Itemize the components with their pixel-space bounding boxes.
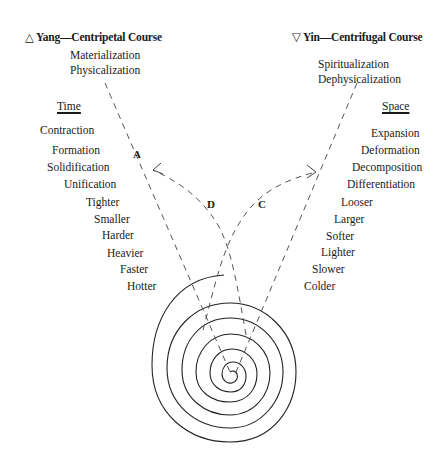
triangle-down-icon: ▽ — [292, 31, 301, 43]
yin-title: ▽ Yin—Centrifugal Course — [292, 30, 422, 44]
yang-word: Unification — [64, 178, 116, 190]
yin-word: Differentiation — [347, 178, 415, 190]
arrow-right-icon — [307, 165, 316, 178]
path-c-line — [203, 172, 316, 330]
yang-word: Solidification — [47, 161, 110, 173]
yin-subtitles: Spiritualization Dephysicalization — [318, 57, 401, 87]
yang-word: Hotter — [127, 280, 156, 292]
yin-word: Expansion — [371, 127, 420, 139]
yang-subtitle: Materialization — [70, 48, 140, 63]
yang-title-text: Yang—Centripetal Course — [36, 31, 162, 43]
arrow-left-icon — [153, 163, 163, 174]
label-c: C — [258, 198, 266, 210]
yin-subtitle: Dephysicalization — [318, 72, 401, 87]
label-a: A — [133, 148, 141, 160]
yang-word: Smaller — [94, 213, 130, 225]
yin-word: Colder — [304, 280, 335, 292]
yin-word: Looser — [341, 196, 373, 208]
yin-course-line — [236, 83, 357, 372]
yin-word: Larger — [334, 213, 364, 225]
yang-subtitle: Physicalization — [70, 63, 140, 78]
space-header: Space — [382, 100, 409, 112]
yin-word: Softer — [326, 230, 354, 242]
yin-word: Deformation — [361, 144, 420, 156]
yin-subtitle: Spiritualization — [318, 57, 401, 72]
triangle-up-icon: △ — [25, 31, 34, 43]
yin-word: Lighter — [321, 246, 355, 258]
yin-title-text: Yin—Centrifugal Course — [303, 31, 422, 43]
yang-word: Harder — [102, 229, 134, 241]
yang-subtitles: Materialization Physicalization — [70, 48, 140, 78]
yang-word: Faster — [120, 263, 148, 275]
yin-word: Slower — [312, 263, 345, 275]
label-d: D — [207, 198, 215, 210]
yang-word: Tighter — [86, 196, 119, 208]
yang-word: Formation — [52, 144, 100, 156]
yang-word: Contraction — [40, 124, 94, 136]
yin-word: Decomposition — [352, 161, 422, 173]
yang-word: Heavier — [107, 247, 143, 259]
yang-title: △ Yang—Centripetal Course — [25, 30, 162, 44]
yang-course-line — [105, 83, 230, 372]
time-header: Time — [57, 100, 81, 112]
